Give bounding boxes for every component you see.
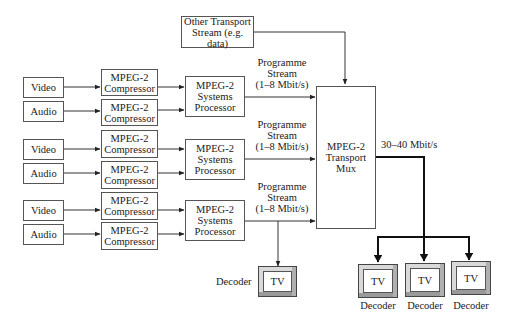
transport-mux-box: MPEG-2 Transport Mux bbox=[316, 86, 376, 229]
tv-icon: TV bbox=[358, 264, 398, 298]
processor-line3: Processor bbox=[195, 226, 236, 237]
stream-label-line3: (1–8 Mbit/s) bbox=[250, 141, 314, 152]
programme-stream-label-3: Programme Stream (1–8 Mbit/s) bbox=[250, 181, 314, 214]
compressor-line2: Compressor bbox=[104, 113, 155, 124]
tv-label: TV bbox=[371, 276, 385, 287]
compressor-line2: Compressor bbox=[104, 236, 155, 247]
processor-line1: MPEG-2 bbox=[196, 80, 234, 91]
video-label: Video bbox=[31, 205, 56, 216]
compressor-line1: MPEG-2 bbox=[111, 133, 149, 144]
audio-compressor-3: MPEG-2 Compressor bbox=[101, 222, 158, 250]
systems-processor-1: MPEG-2 Systems Processor bbox=[185, 76, 245, 117]
output-rate-label: 30–40 Mbit/s bbox=[381, 139, 437, 150]
processor-line1: MPEG-2 bbox=[196, 204, 234, 215]
tv-label: TV bbox=[464, 273, 478, 284]
video-compressor-2: MPEG-2 Compressor bbox=[101, 130, 158, 158]
tv-label: TV bbox=[418, 275, 432, 286]
compressor-line1: MPEG-2 bbox=[111, 102, 149, 113]
stream-label-line1: Programme bbox=[250, 181, 314, 192]
tv-label: TV bbox=[271, 276, 285, 287]
video-compressor-1: MPEG-2 Compressor bbox=[101, 69, 158, 96]
processor-line2: Systems bbox=[197, 91, 232, 102]
compressor-line1: MPEG-2 bbox=[111, 72, 149, 83]
compressor-line1: MPEG-2 bbox=[111, 195, 149, 206]
audio-label: Audio bbox=[30, 168, 56, 179]
compressor-line2: Compressor bbox=[104, 83, 155, 94]
tv-icon: TV bbox=[405, 263, 445, 297]
compressor-line1: MPEG-2 bbox=[111, 164, 149, 175]
video-source-1: Video bbox=[23, 77, 64, 98]
receiver-decoder-label-1: Decoder bbox=[356, 300, 400, 311]
receiver-decoder-label-3: Decoder bbox=[449, 300, 493, 311]
compressor-line2: Compressor bbox=[104, 206, 155, 217]
video-compressor-3: MPEG-2 Compressor bbox=[101, 192, 158, 220]
programme-stream-label-2: Programme Stream (1–8 Mbit/s) bbox=[250, 119, 314, 152]
audio-label: Audio bbox=[30, 106, 56, 117]
systems-processor-3: MPEG-2 Systems Processor bbox=[185, 200, 245, 241]
processor-line3: Processor bbox=[195, 102, 236, 113]
audio-compressor-1: MPEG-2 Compressor bbox=[101, 99, 158, 126]
mux-line2: Transport bbox=[326, 152, 366, 163]
tv-icon: TV bbox=[258, 266, 297, 297]
audio-source-1: Audio bbox=[23, 101, 64, 122]
stream-label-line3: (1–8 Mbit/s) bbox=[250, 79, 314, 90]
stream-label-line2: Stream bbox=[250, 130, 314, 141]
other-stream-line2: Stream (e.g. data) bbox=[182, 27, 253, 49]
processor-line2: Systems bbox=[197, 215, 232, 226]
mux-line1: MPEG-2 bbox=[327, 141, 365, 152]
processor-line2: Systems bbox=[197, 154, 232, 165]
video-source-2: Video bbox=[23, 139, 64, 160]
stream-label-line1: Programme bbox=[250, 119, 314, 130]
processor-line3: Processor bbox=[195, 165, 236, 176]
compressor-line1: MPEG-2 bbox=[111, 225, 149, 236]
other-stream-line1: Other Transport bbox=[184, 16, 251, 27]
video-label: Video bbox=[31, 82, 56, 93]
audio-compressor-2: MPEG-2 Compressor bbox=[101, 161, 158, 189]
local-decoder-label: Decoder bbox=[216, 276, 252, 287]
receiver-decoder-label-2: Decoder bbox=[403, 300, 447, 311]
programme-stream-label-1: Programme Stream (1–8 Mbit/s) bbox=[250, 57, 314, 90]
tv-icon: TV bbox=[451, 261, 491, 295]
systems-processor-2: MPEG-2 Systems Processor bbox=[185, 139, 245, 180]
compressor-line2: Compressor bbox=[104, 175, 155, 186]
audio-source-3: Audio bbox=[23, 224, 64, 245]
other-transport-stream-box: Other Transport Stream (e.g. data) bbox=[181, 16, 254, 48]
stream-label-line3: (1–8 Mbit/s) bbox=[250, 203, 314, 214]
stream-label-line2: Stream bbox=[250, 192, 314, 203]
stream-label-line1: Programme bbox=[250, 57, 314, 68]
audio-source-2: Audio bbox=[23, 163, 64, 184]
mux-line3: Mux bbox=[336, 163, 356, 174]
video-label: Video bbox=[31, 144, 56, 155]
audio-label: Audio bbox=[30, 229, 56, 240]
compressor-line2: Compressor bbox=[104, 144, 155, 155]
stream-label-line2: Stream bbox=[250, 68, 314, 79]
processor-line1: MPEG-2 bbox=[196, 143, 234, 154]
video-source-3: Video bbox=[23, 200, 64, 221]
